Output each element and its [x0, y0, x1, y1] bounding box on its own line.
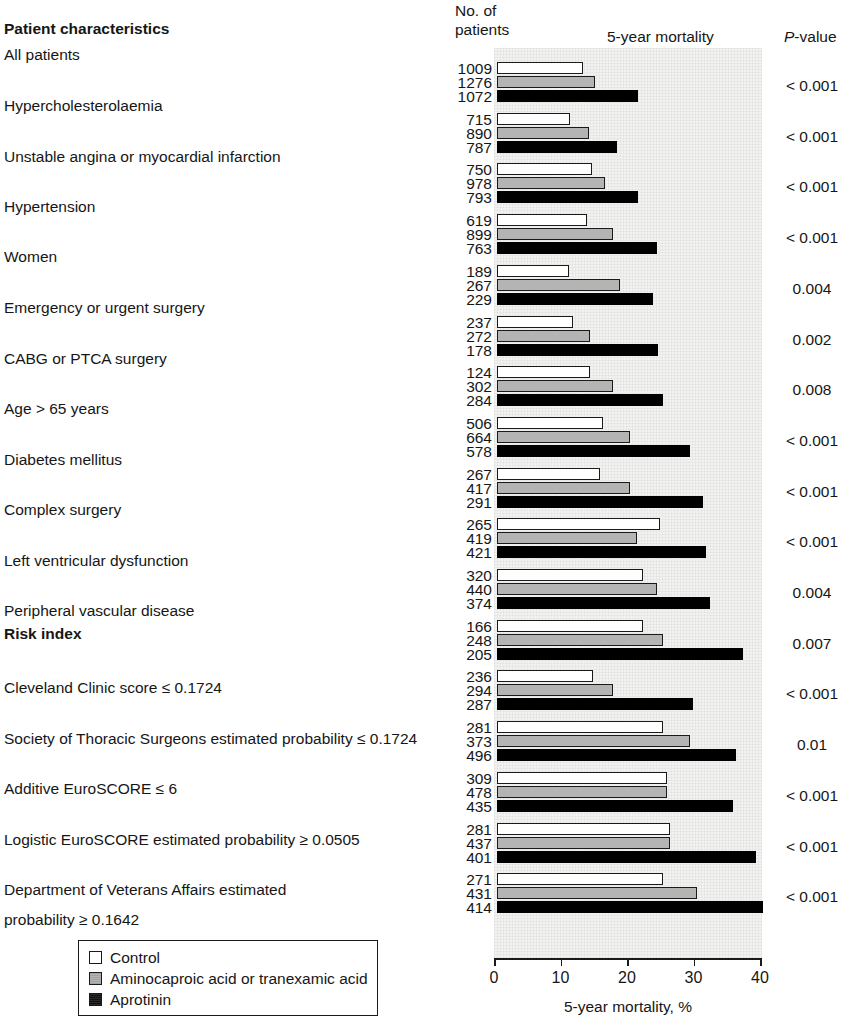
- bar-amino: [497, 380, 613, 392]
- p-value: 0.01: [766, 736, 858, 754]
- bar-control: [497, 823, 670, 835]
- patient-count: 284: [440, 394, 492, 408]
- bar-aprotinin: [497, 851, 756, 863]
- bar-amino: [497, 228, 613, 240]
- bar-amino: [497, 431, 630, 443]
- bar-amino: [497, 583, 657, 595]
- x-axis-tick-label: 40: [751, 969, 769, 987]
- row-label: Department of Veterans Affairs estimated: [4, 880, 286, 899]
- bar-aprotinin: [497, 597, 710, 609]
- patient-count: 229: [440, 293, 492, 307]
- figure-panel: Patient characteristics No. of patients …: [0, 0, 860, 1026]
- legend: Control Aminocaproic acid or tranexamic …: [78, 940, 378, 1016]
- row-label: Complex surgery: [4, 500, 121, 519]
- patient-count: 178: [440, 344, 492, 358]
- bar-control: [497, 569, 643, 581]
- x-axis-tick-label: 0: [490, 969, 499, 987]
- row-label: Hypertension: [4, 197, 95, 216]
- patient-count: 401: [440, 851, 492, 865]
- p-value: 0.007: [766, 635, 858, 653]
- row-label: Logistic EuroSCORE estimated probability…: [4, 830, 360, 849]
- bar-chart-plot-area: [494, 48, 762, 958]
- row-label: Emergency or urgent surgery: [4, 298, 205, 317]
- p-value: < 0.001: [766, 838, 858, 856]
- x-axis-title: 5-year mortality, %: [494, 998, 762, 1016]
- bar-aprotinin: [497, 546, 706, 558]
- row-label: probability ≥ 0.1642: [4, 910, 139, 929]
- legend-swatch-amino-icon: [89, 972, 102, 985]
- x-axis-tick: [494, 958, 496, 966]
- p-value: < 0.001: [766, 685, 858, 703]
- patient-count: 374: [440, 597, 492, 611]
- bar-amino: [497, 177, 605, 189]
- bar-control: [497, 113, 570, 125]
- row-label: Age > 65 years: [4, 399, 109, 418]
- row-label: Peripheral vascular disease: [4, 601, 194, 620]
- x-axis-tick-label: 20: [618, 969, 636, 987]
- bar-aprotinin: [497, 191, 638, 203]
- patient-count: 291: [440, 496, 492, 510]
- bar-control: [497, 163, 592, 175]
- patient-count: 287: [440, 698, 492, 712]
- bar-aprotinin: [497, 749, 736, 761]
- bar-control: [497, 518, 660, 530]
- p-value: 0.008: [766, 381, 858, 399]
- p-value: < 0.001: [766, 178, 858, 196]
- p-value: < 0.001: [766, 787, 858, 805]
- x-axis: 010203040: [494, 958, 762, 972]
- x-axis-tick: [694, 958, 696, 966]
- bar-control: [497, 417, 603, 429]
- patient-count: 1072: [440, 90, 492, 104]
- bar-amino: [497, 735, 690, 747]
- x-axis-tick: [561, 958, 563, 966]
- p-value: 0.004: [766, 280, 858, 298]
- bar-control: [497, 873, 663, 885]
- no-of-patients-column: 1009127610727158907877509787936198997631…: [440, 0, 492, 1026]
- bar-control: [497, 366, 590, 378]
- bar-aprotinin: [497, 648, 743, 660]
- bar-control: [497, 772, 667, 784]
- bar-amino: [497, 634, 663, 646]
- legend-item-amino: Aminocaproic acid or tranexamic acid: [89, 968, 369, 989]
- patient-count: 793: [440, 191, 492, 205]
- patient-count: 421: [440, 546, 492, 560]
- bar-aprotinin: [497, 800, 733, 812]
- p-value: < 0.001: [766, 229, 858, 247]
- bar-control: [497, 62, 583, 74]
- legend-item-control: Control: [89, 947, 369, 968]
- p-value: < 0.001: [766, 533, 858, 551]
- legend-label-control: Control: [110, 949, 160, 967]
- bar-amino: [497, 482, 630, 494]
- row-label: All patients: [4, 45, 80, 64]
- bar-aprotinin: [497, 293, 653, 305]
- row-label: Risk index: [4, 624, 82, 643]
- bar-amino: [497, 127, 589, 139]
- p-value: < 0.001: [766, 77, 858, 95]
- bar-control: [497, 265, 569, 277]
- row-label: Left ventricular dysfunction: [4, 551, 188, 570]
- bar-amino: [497, 330, 590, 342]
- patient-count: 205: [440, 648, 492, 662]
- bar-aprotinin: [497, 394, 663, 406]
- row-label: Hypercholesterolaemia: [4, 96, 163, 115]
- legend-swatch-aprotinin-icon: [89, 993, 102, 1006]
- bar-control: [497, 468, 600, 480]
- p-value: 0.002: [766, 331, 858, 349]
- bar-amino: [497, 837, 670, 849]
- row-label: Additive EuroSCORE ≤ 6: [4, 779, 177, 798]
- bar-aprotinin: [497, 242, 657, 254]
- row-label: Unstable angina or myocardial infarction: [4, 147, 281, 166]
- p-value: < 0.001: [766, 128, 858, 146]
- bar-control: [497, 620, 643, 632]
- x-axis-tick: [760, 958, 762, 966]
- chart-title: 5-year mortality: [607, 28, 714, 46]
- x-axis-tick-label: 10: [552, 969, 570, 987]
- p-value: < 0.001: [766, 483, 858, 501]
- patient-count: 435: [440, 800, 492, 814]
- patient-count: 578: [440, 445, 492, 459]
- bar-amino: [497, 76, 595, 88]
- bar-control: [497, 721, 663, 733]
- bar-aprotinin: [497, 90, 638, 102]
- patient-count: 787: [440, 141, 492, 155]
- p-value-column: < 0.001< 0.001< 0.001< 0.0010.0040.0020.…: [766, 0, 860, 1026]
